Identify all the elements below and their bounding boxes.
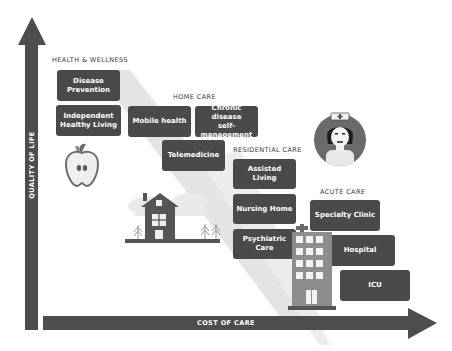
- nurse-avatar-icon: [312, 110, 368, 170]
- x-axis-label: COST OF CARE: [197, 319, 255, 327]
- category-residential-care: RESIDENTIAL CARE: [233, 146, 302, 154]
- box-mobile-health: Mobile health: [128, 106, 191, 137]
- category-acute-care: ACUTE CARE: [320, 188, 365, 196]
- box-assisted-living: Assisted Living: [233, 159, 296, 189]
- box-icu: ICU: [340, 270, 410, 301]
- box-psychiatric-care: Psychiatric Care: [233, 229, 296, 259]
- category-health-wellness: HEALTH & WELLNESS: [52, 56, 128, 64]
- category-home-care: HOME CARE: [173, 93, 216, 101]
- box-independent-healthy-living: Independent Healthy Living: [56, 105, 121, 136]
- box-chronic-disease-self-management: Chronic disease self-management: [195, 106, 258, 137]
- box-disease-prevention: Disease Prevention: [57, 70, 120, 101]
- apple-icon: [62, 142, 102, 192]
- house-icon: [115, 180, 225, 245]
- box-nursing-home: Nursing Home: [233, 194, 296, 224]
- box-telemedicine: Telemedicine: [162, 140, 225, 171]
- hospital-building-icon: [288, 222, 336, 312]
